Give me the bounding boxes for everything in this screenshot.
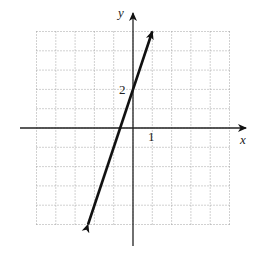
y-tick-label-2: 2: [119, 83, 126, 96]
coordinate-plane: [0, 0, 259, 259]
x-axis-label: x: [240, 133, 246, 146]
x-tick-label-1: 1: [148, 130, 155, 143]
y-axis-label: y: [118, 6, 124, 19]
